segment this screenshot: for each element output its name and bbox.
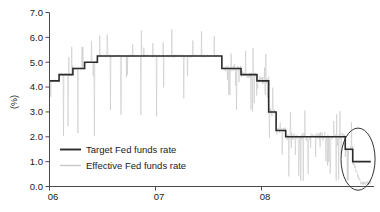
y-tick-label-2: 2.0 <box>30 131 43 142</box>
y-axis-title: (%) <box>9 95 19 109</box>
fed-funds-rate-chart: 7.0 6.0 5.0 4.0 3.0 2.0 1.0 0.0 (%) 06 0… <box>0 0 380 212</box>
x-tick-label-07: 07 <box>154 191 165 202</box>
y-tick-label-5: 5.0 <box>30 57 43 68</box>
chart-legend: Target Fed funds rate Effective Fed fund… <box>60 144 186 171</box>
legend-label-target: Target Fed funds rate <box>86 144 176 155</box>
y-tick-label-7: 7.0 <box>30 7 43 18</box>
chart-figure: 7.0 6.0 5.0 4.0 3.0 2.0 1.0 0.0 (%) 06 0… <box>0 0 380 212</box>
x-tick-label-08: 08 <box>260 191 271 202</box>
end-of-sample-highlight-ellipse <box>341 128 375 190</box>
y-tick-label-6: 6.0 <box>30 32 43 43</box>
y-tick-label-1: 1.0 <box>30 156 43 167</box>
x-tick-label-06: 06 <box>48 191 59 202</box>
y-tick-label-3: 3.0 <box>30 106 43 117</box>
x-axis-tick-labels: 06 07 08 <box>48 191 271 202</box>
y-tick-label-4: 4.0 <box>30 81 43 92</box>
y-axis-ticks <box>46 13 50 187</box>
y-tick-label-0: 0.0 <box>30 181 43 192</box>
legend-label-effective: Effective Fed funds rate <box>86 160 186 171</box>
x-axis-ticks <box>50 187 262 191</box>
y-axis-tick-labels: 7.0 6.0 5.0 4.0 3.0 2.0 1.0 0.0 <box>30 7 43 192</box>
